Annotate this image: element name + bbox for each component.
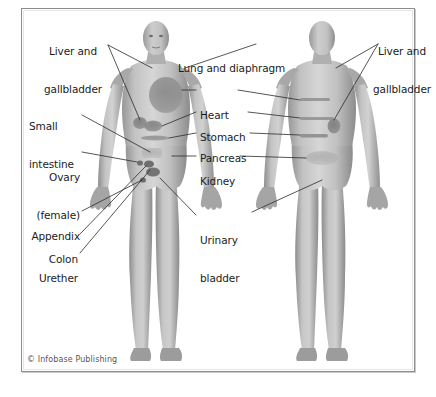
anterior-left-foot [130,348,151,361]
anterior-head [143,21,169,55]
label-urinary-bladder-line1: Urinary [200,234,239,247]
heart-marker-back [300,98,330,101]
posterior-right-leg [322,178,346,350]
label-liver-gallbladder-left-line1: Liver and [36,45,110,58]
label-lung-diaphragm-line1: Lung and diaphragm [178,62,285,75]
label-urether-line1: Urether [20,272,78,285]
label-urinary-bladder-line2: bladder [200,272,239,285]
posterior-pelvis [292,140,353,190]
kidney-marker-back [306,151,338,165]
label-kidney-line1: Kidney [200,175,235,188]
posterior-head [309,21,335,55]
label-lung-diaphragm: Lung and diaphragm [178,37,285,100]
label-liver-gallbladder-right: Liver and gallbladder [370,20,434,120]
label-ovary-female-line1: Ovary [22,171,80,184]
leader-liver-gallbladder-left-a [108,45,152,68]
label-urinary-bladder: Urinary bladder [200,209,239,309]
posterior-right-foot [326,348,348,361]
label-small-intestine-line1: Small [29,120,74,133]
label-liver-gallbladder-right-line1: Liver and [370,45,434,58]
anterior-right-eye [159,35,163,38]
label-kidney: Kidney [200,150,235,213]
posterior-left-foot [296,348,317,361]
figure-page: Liver and gallbladder Lung and diaphragm… [0,0,436,397]
anterior-left-hand [90,187,111,210]
copyright-notice: © Infobase Publishing [27,355,117,364]
posterior-torso [288,59,356,146]
stomach-marker-back [300,117,334,120]
posterior-left-hand [256,187,277,210]
gallbladder-marker-back [328,119,341,134]
anterior-right-leg [156,178,180,350]
anterior-left-leg [129,178,152,350]
posterior-left-leg [295,178,318,350]
anterior-pelvis [126,140,187,190]
pancreas-marker [141,135,169,140]
posterior-right-hand [367,187,388,210]
figure-caption [60,386,430,397]
pancreas-marker-back [300,134,328,138]
label-liver-gallbladder-left-line2: gallbladder [36,83,110,96]
ovary-marker [137,160,143,165]
anterior-right-foot [160,348,182,361]
posterior-left-arm [264,84,290,190]
label-liver-gallbladder-right-line2: gallbladder [370,83,434,96]
label-urether: Urether [20,247,78,310]
stomach-marker [144,121,162,132]
anterior-left-eye [149,35,153,38]
